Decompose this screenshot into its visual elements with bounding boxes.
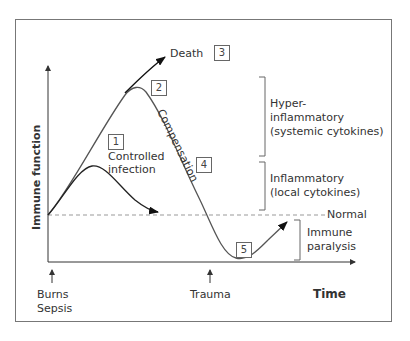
immune-paralysis-bracket [294,220,300,260]
sepsis-label: Sepsis [37,302,72,315]
stage-box-1: 1 [108,134,124,150]
inflammatory-label-1: Inflammatory [270,172,344,185]
hyperinflammatory-bracket [259,77,265,156]
stage-box-4: 4 [196,157,212,173]
x-axis-label: Time [313,288,346,301]
stage-box-2: 2 [151,80,167,96]
hyper-label-2: inflammatory [270,111,344,124]
y-axis-label: Immune function [30,125,43,230]
hyper-label-1: Hyper- [270,97,306,110]
inflammatory-bracket [259,162,265,210]
controlled-label: Controlled [108,150,165,163]
trauma-label: Trauma [190,288,231,301]
normal-label: Normal [327,208,367,221]
paralysis-label-1: Immune [307,226,352,239]
stage-box-5: 5 [236,242,252,258]
stage-box-3: 3 [214,45,230,61]
paralysis-label-2: paralysis [307,240,356,253]
burns-label: Burns [37,288,69,301]
inflammatory-label-2: (local cytokines) [270,186,360,199]
infection-label: infection [108,163,156,176]
death-label: Death [170,47,203,60]
recovery-arrow [268,222,287,240]
hyper-label-3: (systemic cytokines) [270,125,383,138]
